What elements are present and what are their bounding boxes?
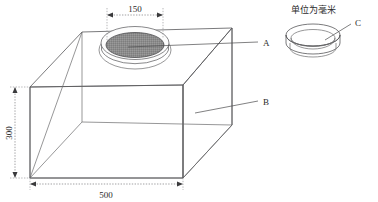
dim500-text: 500 [99,190,113,200]
dish-inner-bottom-curve [291,38,335,49]
dim300-text: 300 [4,126,14,140]
callout-c-label: C [355,18,361,28]
callout-a-label: A [263,38,270,48]
dim300-arrow-bottom [13,172,18,178]
technical-drawing-svg: 150 300 500 A B [0,0,378,202]
dimension-500: 500 [30,178,183,200]
dim500-arrow-right [177,182,183,187]
box-diagonal-left [30,32,82,178]
pad-membrane [106,33,164,58]
dimension-300: 300 [4,87,30,178]
circular-pad-assembly [99,27,171,70]
box-diagonal-bottom-right [183,125,232,178]
callout-b-leader [195,101,258,113]
shallow-dish-assembly [286,24,340,57]
box-edge-bottom-back-left [82,122,232,125]
box-right-face [183,28,232,178]
dim500-arrow-left [30,182,36,187]
dish-outer-wall [286,35,340,54]
box-front-face [30,85,183,178]
dim150-arrow-left [107,13,113,18]
dim150-text: 150 [128,4,142,14]
dim150-arrow-right [157,13,163,18]
units-note: 单位为毫米 [291,4,336,15]
callout-c: C [325,18,361,40]
callout-b-label: B [263,97,269,107]
box-diagonal-bottom-left [30,122,82,178]
dim300-arrow-top [13,87,18,93]
figure-canvas: 150 300 500 A B [0,0,378,202]
